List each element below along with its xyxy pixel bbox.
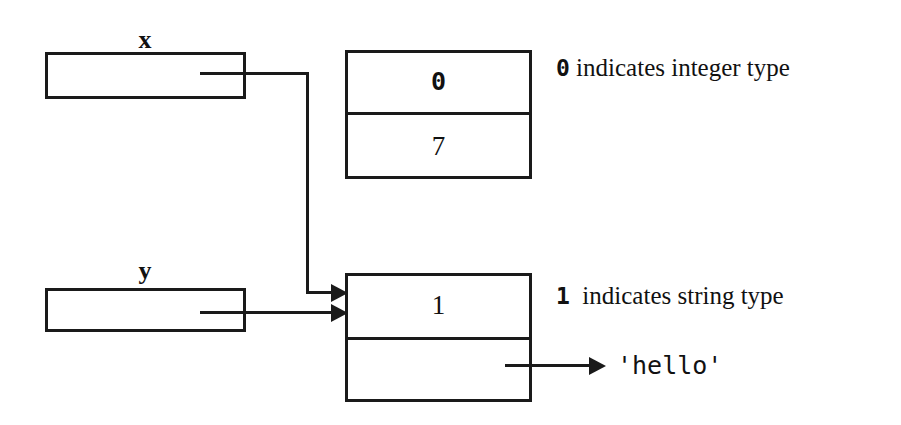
string-object-typetag-value: 1 bbox=[432, 292, 446, 319]
variable-box-x bbox=[45, 52, 246, 99]
integer-object-value: 7 bbox=[432, 133, 446, 160]
string-value-pointer-arrowhead bbox=[589, 357, 606, 375]
string-object-value-cell bbox=[345, 338, 532, 402]
integer-object-value-cell: 7 bbox=[345, 113, 532, 179]
integer-object-typetag-cell: 0 bbox=[345, 50, 532, 112]
string-type-annotation-text: indicates string type bbox=[570, 282, 784, 309]
diagram-canvas: x 0 7 0 indicates integer type y 1 1 ind… bbox=[0, 0, 901, 425]
integer-type-annotation-text: indicates integer type bbox=[570, 54, 790, 81]
variable-label-x: x bbox=[110, 27, 180, 53]
integer-object-typetag-value: 0 bbox=[431, 69, 446, 94]
string-type-annotation-tag: 1 bbox=[556, 283, 570, 309]
pointer-x-segment-vertical bbox=[306, 72, 309, 294]
string-type-annotation: 1 indicates string type bbox=[556, 283, 784, 308]
string-object-typetag-cell: 1 bbox=[345, 273, 532, 337]
integer-type-annotation-tag: 0 bbox=[556, 55, 570, 81]
variable-label-y: y bbox=[110, 258, 180, 284]
integer-type-annotation: 0 indicates integer type bbox=[556, 55, 790, 80]
pointer-y-segment-horizontal bbox=[200, 311, 342, 314]
pointer-x-segment-horizontal bbox=[200, 72, 309, 75]
variable-box-y bbox=[45, 288, 246, 332]
string-value-literal: 'hello' bbox=[617, 353, 722, 378]
string-value-pointer-line bbox=[505, 364, 595, 367]
